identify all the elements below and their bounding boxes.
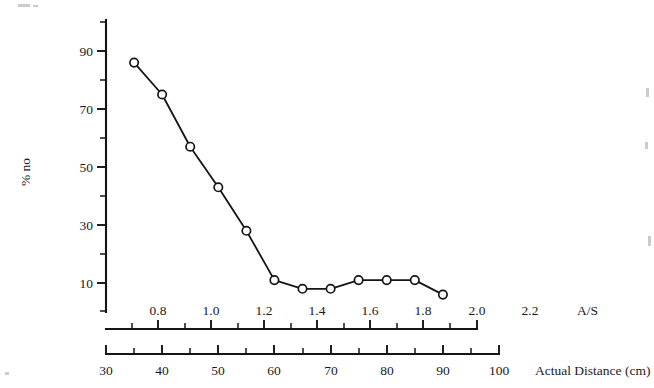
as-axis-major-ticks bbox=[158, 320, 477, 329]
y-tick-label-70: 70 bbox=[80, 102, 94, 117]
chart-canvas: 90 70 50 30 10 % no bbox=[0, 0, 654, 388]
y-axis-major-ticks bbox=[97, 51, 106, 283]
data-point-marker bbox=[158, 90, 166, 98]
x-axis-secondary-as: 0.8 1.0 1.2 1.4 1.6 1.8 2.0 2.2 A/S bbox=[106, 303, 598, 329]
data-point-marker bbox=[214, 183, 222, 191]
as-tick-label-2-0: 2.0 bbox=[469, 303, 486, 318]
distance-tick-label-40: 40 bbox=[155, 363, 169, 378]
distance-tick-label-30: 30 bbox=[99, 363, 113, 378]
distance-tick-label-60: 60 bbox=[267, 363, 281, 378]
distance-tick-label-100: 100 bbox=[489, 363, 510, 378]
y-tick-label-10: 10 bbox=[80, 276, 94, 291]
y-axis: 90 70 50 30 10 % no bbox=[18, 20, 106, 312]
data-point-marker bbox=[270, 276, 278, 284]
as-axis-title: A/S bbox=[577, 303, 598, 318]
data-point-marker bbox=[411, 276, 419, 284]
x-axis-primary-distance: 30 40 50 60 70 80 90 100 Actual Distance… bbox=[99, 345, 650, 378]
distance-tick-label-80: 80 bbox=[380, 363, 394, 378]
data-series-percent-no bbox=[130, 58, 447, 298]
as-tick-label-1-2: 1.2 bbox=[256, 303, 273, 318]
data-point-marker bbox=[186, 143, 194, 151]
data-point-marker bbox=[130, 58, 138, 66]
distance-tick-label-90: 90 bbox=[436, 363, 450, 378]
data-point-marker bbox=[439, 290, 447, 298]
as-tick-label-1-6: 1.6 bbox=[362, 303, 379, 318]
y-tick-label-50: 50 bbox=[80, 160, 94, 175]
chart-figure: 90 70 50 30 10 % no bbox=[0, 0, 654, 388]
data-point-marker bbox=[326, 285, 334, 293]
series-markers bbox=[130, 58, 447, 298]
as-tick-label-1-8: 1.8 bbox=[415, 303, 432, 318]
data-point-marker bbox=[242, 227, 250, 235]
as-tick-label-0-8: 0.8 bbox=[150, 303, 167, 318]
distance-tick-label-70: 70 bbox=[324, 363, 338, 378]
as-tick-label-1-4: 1.4 bbox=[309, 303, 326, 318]
series-line bbox=[134, 63, 443, 295]
x-axis-title: Actual Distance (cm) bbox=[535, 363, 650, 378]
data-point-marker bbox=[383, 276, 391, 284]
data-point-marker bbox=[354, 276, 362, 284]
data-point-marker bbox=[298, 285, 306, 293]
y-axis-title: % no bbox=[18, 158, 33, 186]
scan-artifacts bbox=[5, 4, 651, 375]
y-tick-label-30: 30 bbox=[80, 218, 94, 233]
y-tick-label-90: 90 bbox=[80, 44, 94, 59]
as-tick-label-2-2: 2.2 bbox=[522, 303, 539, 318]
distance-tick-label-50: 50 bbox=[211, 363, 225, 378]
as-tick-label-1-0: 1.0 bbox=[203, 303, 220, 318]
